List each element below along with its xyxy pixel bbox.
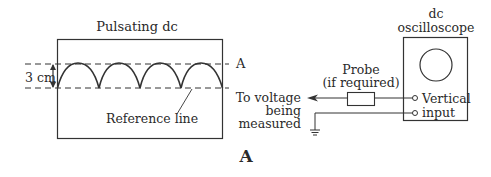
pulsating-dc-waveform — [58, 63, 223, 88]
ground-icon — [310, 130, 320, 135]
input-label-line1: Vertical — [421, 91, 471, 106]
vertical-input-terminal — [413, 96, 418, 101]
ground-input-terminal — [413, 111, 418, 116]
crt-screen-icon — [420, 49, 452, 81]
ground-wire — [315, 113, 413, 130]
probe-resistor — [348, 93, 375, 106]
oscilloscope-measurement-diagram: Pulsating dc A 3 cm Reference line dc os… — [0, 0, 491, 177]
waveform-panel: Pulsating dc A 3 cm Reference line — [25, 19, 246, 139]
input-label-line2: input — [422, 105, 455, 120]
waveform-title: Pulsating dc — [96, 19, 178, 34]
level-a-label: A — [235, 56, 246, 71]
figure-caption: A — [238, 146, 253, 166]
reference-line-label: Reference line — [106, 111, 198, 126]
scope-title-line2: oscilloscope — [398, 20, 475, 35]
probe-label-line2: (if required) — [322, 75, 399, 90]
source-label-line3: measured — [238, 116, 301, 131]
scope-title-line1: dc — [428, 6, 443, 21]
circuit-panel: dc oscilloscope Vertical input Probe (if… — [236, 6, 475, 135]
